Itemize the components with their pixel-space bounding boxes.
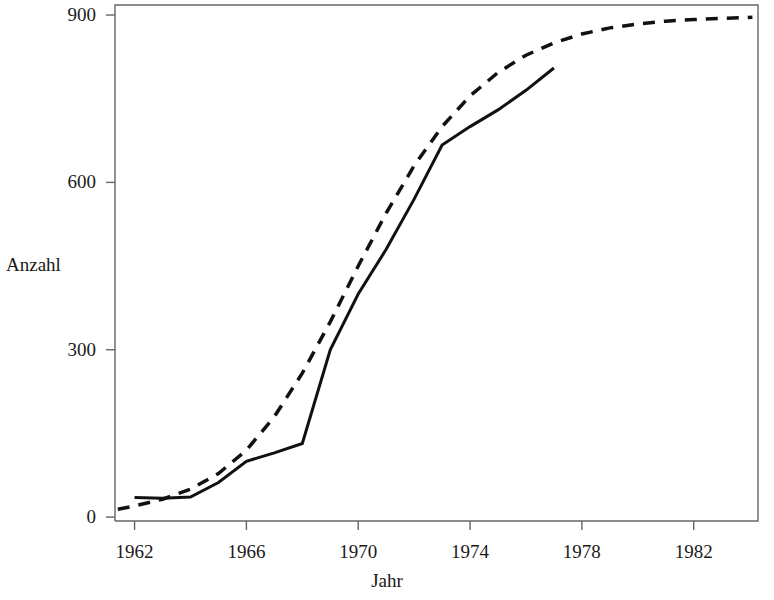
y-axis-tick-label: 600: [10, 172, 96, 191]
x-axis-title: Jahr: [0, 571, 774, 590]
x-axis-tick-label: 1982: [644, 542, 744, 561]
data-series-group: [118, 17, 753, 509]
x-axis-tick-label: 1962: [85, 542, 185, 561]
x-axis-tick-label: 1966: [196, 542, 296, 561]
plot-frame-box: [115, 5, 758, 521]
plot-canvas: [0, 0, 774, 600]
y-axis-tick-label: 900: [10, 5, 96, 24]
y-axis-tick-marks: [106, 15, 115, 517]
y-axis-tick-label: 300: [10, 340, 96, 359]
data-series-line-0: [135, 68, 554, 498]
y-axis-tick-label: 0: [10, 507, 96, 526]
chart-figure: 0300600900 196219661970197419781982 Anza…: [0, 0, 774, 600]
x-axis-tick-label: 1970: [308, 542, 408, 561]
x-axis-tick-marks: [135, 521, 694, 530]
y-axis-title: Anzahl: [6, 255, 61, 274]
x-axis-tick-label: 1978: [532, 542, 632, 561]
data-series-line-1: [118, 17, 753, 509]
plot-frame: [115, 5, 758, 521]
x-axis-tick-label: 1974: [420, 542, 520, 561]
